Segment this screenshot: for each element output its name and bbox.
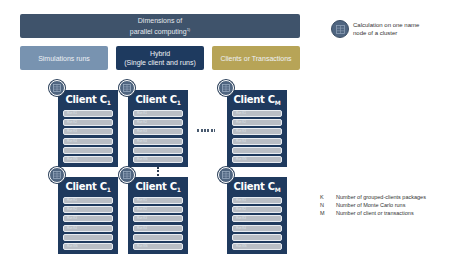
client-title-text: Client C	[234, 94, 275, 105]
client-subscript: M	[275, 99, 281, 106]
run-list: Run K1Run K2Run K3Run K4Run KN	[133, 110, 183, 165]
client-card: Client CMRun K1Run K2Run K3Run K4Run KN	[227, 90, 287, 167]
run-row: Run KN	[63, 243, 113, 250]
dimension-clients-transactions: Clients or Transactions	[212, 46, 300, 70]
run-row: Run K4	[133, 138, 183, 145]
header-title-text: parallel computing	[130, 28, 187, 35]
run-row: Run K4	[63, 138, 113, 145]
run-row: Run K3	[232, 128, 282, 135]
run-row	[63, 147, 113, 154]
run-list: Run K1Run K2Run K3Run K4Run KN	[133, 197, 183, 252]
client-title-text: Client C	[65, 94, 106, 105]
client-title-text: Client C	[234, 181, 275, 192]
legend-text-line2: node of a cluster	[353, 29, 453, 37]
server-node-icon	[49, 80, 65, 96]
run-row	[133, 147, 183, 154]
server-node-icon	[49, 167, 65, 183]
key-text: Number of client or transactions	[336, 210, 414, 216]
run-row: Run K3	[133, 215, 183, 222]
run-list: Run K1Run K2Run K3Run K4Run KN	[232, 197, 282, 252]
run-list: Run K1Run K2Run K3Run K4Run KN	[63, 197, 113, 252]
key-item: MNumber of client or transactions	[320, 210, 414, 217]
run-row: Run K3	[133, 128, 183, 135]
run-row: Run KN	[133, 156, 183, 163]
run-row: Run K3	[232, 215, 282, 222]
client-card-title: Client C1	[128, 181, 188, 196]
footnote-mark: 1)	[187, 27, 191, 32]
run-row: Run K1	[133, 197, 183, 204]
run-row: Run KN	[133, 243, 183, 250]
run-row: Run K2	[63, 206, 113, 213]
run-row: Run K4	[133, 225, 183, 232]
client-card: Client C1Run K1Run K2Run K3Run K4Run KN	[128, 90, 188, 167]
run-row: Run K2	[133, 119, 183, 126]
run-row: Run K4	[63, 225, 113, 232]
client-card-title: Client C1	[58, 94, 118, 109]
run-row	[63, 234, 113, 241]
dimension-simulations-runs: Simulations runs	[20, 46, 108, 70]
run-row: Run K2	[232, 119, 282, 126]
key-item: NNumber of Monte Carlo runs	[320, 202, 405, 209]
key-item: KNumber of grouped-clients packages	[320, 194, 426, 201]
run-list: Run K1Run K2Run K3Run K4Run KN	[232, 110, 282, 165]
run-row: Run K1	[63, 197, 113, 204]
client-card-title: Client C1	[128, 94, 188, 109]
key-text: Number of Monte Carlo runs	[336, 202, 405, 208]
client-title-text: Client C	[135, 94, 176, 105]
run-row: Run K1	[232, 197, 282, 204]
client-subscript: 1	[107, 186, 111, 193]
run-row: Run K2	[232, 206, 282, 213]
header-title-line1: Dimensions of	[20, 16, 300, 25]
run-row: Run K3	[63, 128, 113, 135]
server-node-icon	[119, 80, 135, 96]
run-row: Run K4	[232, 225, 282, 232]
run-row	[232, 147, 282, 154]
dimension-label: Clients or Transactions	[212, 54, 300, 63]
legend-text-line1: Calculation on one name	[353, 21, 453, 29]
horizontal-ellipsis	[197, 129, 215, 132]
run-row: Run K2	[63, 119, 113, 126]
run-row: Run KN	[232, 156, 282, 163]
client-card-title: Client C1	[58, 181, 118, 196]
run-list: Run K1Run K2Run K3Run K4Run KN	[63, 110, 113, 165]
run-row: Run K4	[232, 138, 282, 145]
legend-text: Calculation on one name node of a cluste…	[353, 21, 453, 37]
client-card: Client C1Run K1Run K2Run K3Run K4Run KN	[58, 90, 118, 167]
key-text: Number of grouped-clients packages	[336, 194, 426, 200]
server-node-icon	[119, 167, 135, 183]
client-subscript: 1	[177, 186, 181, 193]
key-symbol: K	[320, 194, 336, 201]
key-symbol: M	[320, 210, 336, 217]
client-subscript: M	[275, 186, 281, 193]
run-row: Run KN	[63, 156, 113, 163]
run-row: Run KN	[232, 243, 282, 250]
dimension-hybrid: Hybrid (Single client and runs)	[116, 46, 204, 70]
run-row: Run K2	[133, 206, 183, 213]
client-card: Client CMRun K1Run K2Run K3Run K4Run KN	[227, 177, 287, 254]
dimension-label: Hybrid	[116, 49, 204, 58]
client-card-title: Client CM	[227, 181, 287, 196]
vertical-ellipsis	[157, 167, 159, 177]
header-title-line2: parallel computing1)	[20, 25, 300, 36]
client-title-text: Client C	[65, 181, 106, 192]
run-row	[133, 234, 183, 241]
server-node-icon	[331, 20, 349, 38]
key-symbol: N	[320, 202, 336, 209]
server-node-icon	[218, 80, 234, 96]
run-row: Run K1	[232, 110, 282, 117]
client-subscript: 1	[107, 99, 111, 106]
client-card-title: Client CM	[227, 94, 287, 109]
client-title-text: Client C	[135, 181, 176, 192]
client-card: Client C1Run K1Run K2Run K3Run K4Run KN	[58, 177, 118, 254]
client-card: Client C1Run K1Run K2Run K3Run K4Run KN	[128, 177, 188, 254]
run-row: Run K3	[63, 215, 113, 222]
dimension-sublabel: (Single client and runs)	[116, 58, 204, 67]
dimensions-header: Dimensions of parallel computing1)	[20, 14, 300, 38]
client-subscript: 1	[177, 99, 181, 106]
run-row: Run K1	[63, 110, 113, 117]
run-row	[232, 234, 282, 241]
dimension-label: Simulations runs	[20, 54, 108, 63]
server-node-icon	[218, 167, 234, 183]
run-row: Run K1	[133, 110, 183, 117]
